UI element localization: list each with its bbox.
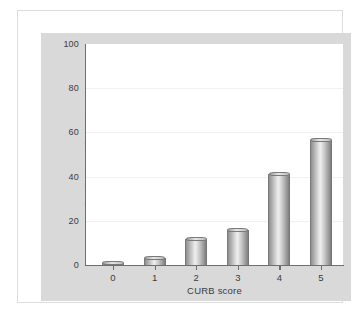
y-axis-line xyxy=(85,44,86,266)
bar-cap xyxy=(144,256,165,260)
bar-curb-5 xyxy=(310,140,332,265)
plot-area xyxy=(85,44,343,265)
x-tick-mark-2 xyxy=(196,266,197,270)
x-tick-label-0: 0 xyxy=(93,272,133,283)
x-tick-mark-5 xyxy=(321,266,322,270)
x-tick-mark-1 xyxy=(155,266,156,270)
y-tick-label-60: 60 xyxy=(39,127,79,137)
y-tick-label-0: 0 xyxy=(39,260,79,270)
bar-curb-2 xyxy=(185,239,207,266)
figure-frame: In-hospital mortality (%) 100 80 60 40 2… xyxy=(17,10,343,303)
bar-cap xyxy=(227,228,248,232)
chart-page: In-hospital mortality (%) 100 80 60 40 2… xyxy=(0,0,360,313)
x-tick-label-5: 5 xyxy=(301,272,341,283)
chart-panel: In-hospital mortality (%) 100 80 60 40 2… xyxy=(41,33,351,301)
y-tick-label-100: 100 xyxy=(39,39,79,49)
x-tick-label-2: 2 xyxy=(176,272,216,283)
bar-cap xyxy=(310,138,331,142)
gridline-80 xyxy=(85,88,343,89)
x-tick-mark-4 xyxy=(279,266,280,270)
bar-curb-1 xyxy=(144,258,166,265)
bar-curb-3 xyxy=(227,230,249,265)
x-tick-mark-3 xyxy=(238,266,239,270)
x-tick-label-4: 4 xyxy=(259,272,299,283)
x-axis-title: CURB score xyxy=(85,285,344,296)
gridline-60 xyxy=(85,132,343,133)
bar-cap xyxy=(269,172,290,176)
x-tick-label-3: 3 xyxy=(218,272,258,283)
y-tick-label-20: 20 xyxy=(39,216,79,226)
y-tick-label-80: 80 xyxy=(39,83,79,93)
gridline-20 xyxy=(85,221,343,222)
x-tick-mark-0 xyxy=(113,266,114,270)
x-axis-line xyxy=(85,265,344,266)
bar-curb-4 xyxy=(268,174,290,265)
x-tick-label-1: 1 xyxy=(135,272,175,283)
y-tick-label-40: 40 xyxy=(39,172,79,182)
gridline-40 xyxy=(85,177,343,178)
bar-cap xyxy=(186,237,207,241)
